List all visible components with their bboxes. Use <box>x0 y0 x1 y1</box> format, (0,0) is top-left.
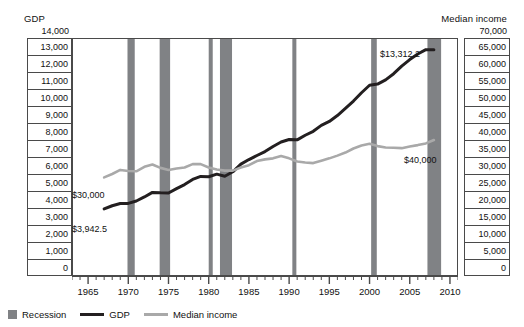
axis-tick-label: 10,000 <box>28 90 71 107</box>
axis-tick-label: 6,000 <box>28 158 71 175</box>
plot-svg <box>72 38 458 276</box>
x-axis-tick-labels: 1965197019751980198519901995200020052010 <box>0 286 524 302</box>
x-axis-tick-label: 1985 <box>238 286 259 297</box>
legend-item[interactable]: Recession <box>8 309 66 320</box>
x-axis-tick-label: 1980 <box>198 286 219 297</box>
legend-label: Recession <box>22 309 66 320</box>
left-axis-tick-labels: 13,00012,00011,00010,0009,0008,0007,0006… <box>27 38 72 276</box>
axis-tick-label: 5,000 <box>28 175 71 192</box>
x-axis-svg <box>72 276 458 286</box>
left-axis-title: GDP <box>24 13 45 24</box>
axis-tick-label: 8,000 <box>28 124 71 141</box>
legend-swatch-recession-icon <box>8 310 17 319</box>
axis-tick-label: 30,000 <box>465 158 509 175</box>
callout-income-start: $30,000 <box>72 190 105 200</box>
x-axis-tick-label: 2005 <box>399 286 420 297</box>
x-axis-tick-label: 1975 <box>158 286 179 297</box>
callout-income-end: $40,000 <box>404 155 437 165</box>
axis-tick-label: 50,000 <box>465 90 509 107</box>
axis-tick-label: 10,000 <box>465 226 509 243</box>
recession-band <box>220 38 232 276</box>
axis-tick-label: 25,000 <box>465 175 509 192</box>
recession-band <box>371 38 377 276</box>
axis-tick-label: 65,000 <box>465 39 509 56</box>
x-axis-tick-label: 2010 <box>439 286 460 297</box>
recession-band <box>292 38 296 276</box>
axis-tick-label: 60,000 <box>465 56 509 73</box>
axis-tick-label: 40,000 <box>465 124 509 141</box>
axis-tick-label: 55,000 <box>465 73 509 90</box>
x-axis-tick-label: 1995 <box>319 286 340 297</box>
x-axis <box>72 276 458 286</box>
legend-item[interactable]: Median income <box>144 309 237 320</box>
right-axis-title: Median income <box>441 13 507 24</box>
axis-tick-label: 4,000 <box>28 192 71 209</box>
x-axis-tick-label: 2000 <box>359 286 380 297</box>
axis-tick-label: 35,000 <box>465 141 509 158</box>
axis-tick-label: 45,000 <box>465 107 509 124</box>
axis-tick-label: 9,000 <box>28 107 71 124</box>
callout-gdp-end: $13,312.2 <box>380 49 420 59</box>
legend-label: Median income <box>173 309 237 320</box>
recession-band <box>209 38 213 276</box>
legend-item[interactable]: GDP <box>80 309 130 320</box>
x-axis-tick-label: 1970 <box>118 286 139 297</box>
chart-container: GDP Median income 14,000 13,00012,00011,… <box>0 0 524 327</box>
recession-band <box>127 38 134 276</box>
series-line-gdp <box>104 50 434 209</box>
axis-tick-label: 11,000 <box>28 73 71 90</box>
axis-tick-label: 20,000 <box>465 192 509 209</box>
right-axis-top-tick-label: 70,000 <box>464 26 510 37</box>
axis-tick-label: 0 <box>465 260 509 277</box>
chart-legend: RecessionGDPMedian income <box>8 309 237 320</box>
series-lines <box>104 50 434 209</box>
axis-tick-label: 12,000 <box>28 56 71 73</box>
x-axis-tick-label: 1990 <box>279 286 300 297</box>
right-axis-tick-labels: 65,00060,00055,00050,00045,00040,00035,0… <box>464 38 510 276</box>
legend-swatch-line-icon <box>144 313 168 316</box>
plot-area <box>72 38 458 276</box>
series-line-median-income <box>104 140 434 177</box>
legend-swatch-line-icon <box>80 313 104 316</box>
axis-tick-label: 5,000 <box>465 243 509 260</box>
axis-tick-label: 7,000 <box>28 141 71 158</box>
recession-band <box>160 38 170 276</box>
axis-tick-label: 0 <box>28 260 71 277</box>
axis-tick-label: 13,000 <box>28 39 71 56</box>
left-axis-top-tick-label: 14,000 <box>27 26 72 37</box>
callout-gdp-start: $3,942.5 <box>72 224 107 234</box>
axis-tick-label: 1,000 <box>28 243 71 260</box>
axis-tick-label: 2,000 <box>28 226 71 243</box>
axis-tick-label: 3,000 <box>28 209 71 226</box>
legend-label: GDP <box>109 309 130 320</box>
axis-tick-label: 15,000 <box>465 209 509 226</box>
x-axis-tick-label: 1965 <box>78 286 99 297</box>
